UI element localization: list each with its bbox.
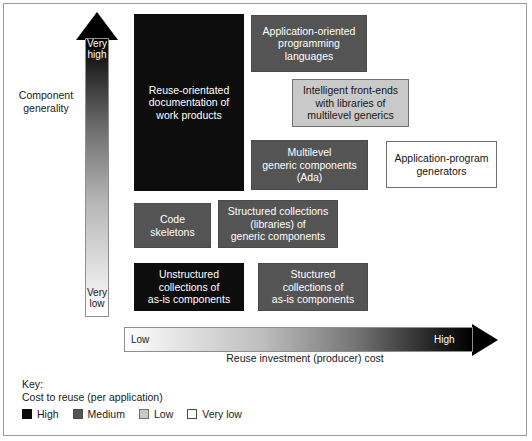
- box-code-skeletons[interactable]: Code skeletons: [134, 203, 211, 248]
- y-axis-gradient-bar: [85, 38, 109, 317]
- y-axis-title: Component generality: [10, 89, 82, 115]
- box-application-program-generators[interactable]: Application-program generators: [386, 141, 497, 188]
- box-application-oriented-programming-languages[interactable]: Application-oriented programming languag…: [251, 15, 367, 72]
- y-axis-low-label: Very low: [80, 287, 114, 309]
- legend-swatch-low-icon: [139, 409, 149, 419]
- box-intelligent-front-ends[interactable]: Intelligent front-ends with libraries of…: [292, 79, 409, 127]
- box-multilevel-generic-components[interactable]: Multilevel generic components (Ada): [251, 140, 368, 190]
- legend-entry-high: High: [22, 408, 59, 420]
- box-structured-collections-generic[interactable]: Structured collections (libraries) of ge…: [218, 200, 338, 248]
- legend-swatch-row: High Medium Low Very low: [22, 408, 352, 420]
- x-axis-arrowhead-icon: [472, 324, 498, 356]
- x-axis-high-label: High: [434, 334, 455, 345]
- legend-label-medium: Medium: [88, 408, 125, 420]
- legend-label-high: High: [37, 408, 59, 420]
- legend-label-low: Low: [154, 408, 173, 420]
- legend-entry-verylow: Very low: [187, 408, 242, 420]
- legend-swatch-verylow-icon: [187, 409, 197, 419]
- legend-label-verylow: Very low: [202, 408, 242, 420]
- box-structured-collections-as-is[interactable]: Stuctured collections of as-is component…: [258, 263, 368, 311]
- x-axis-gradient-bar: [124, 327, 473, 352]
- box-reuse-orientated-documentation[interactable]: Reuse-orientated documentation of work p…: [134, 14, 244, 191]
- legend-swatch-high-icon: [22, 409, 32, 419]
- legend-entry-low: Low: [139, 408, 173, 420]
- legend-subtitle: Cost to reuse (per application): [22, 391, 352, 404]
- legend-title: Key:: [22, 378, 352, 391]
- legend: Key: Cost to reuse (per application) Hig…: [22, 378, 352, 420]
- x-axis-low-label: Low: [131, 334, 149, 345]
- legend-entry-medium: Medium: [73, 408, 125, 420]
- y-axis-high-label: Very high: [80, 38, 114, 60]
- x-axis-title: Reuse investment (producer) cost: [140, 352, 470, 365]
- y-axis-arrowhead-icon: [76, 12, 118, 40]
- diagram-canvas: Component generality Very high Very low …: [0, 0, 532, 441]
- box-unstructured-collections-as-is[interactable]: Unstructured collections of as-is compon…: [134, 263, 244, 311]
- legend-swatch-medium-icon: [73, 409, 83, 419]
